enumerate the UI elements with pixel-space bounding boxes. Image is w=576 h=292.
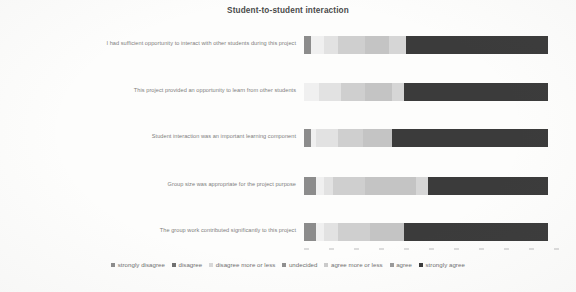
bar-segment[interactable] — [304, 223, 316, 241]
bar-segment[interactable] — [365, 177, 416, 195]
bar-segment[interactable] — [404, 83, 548, 101]
legend-swatch-undecided-icon — [282, 263, 286, 267]
bar-segment[interactable] — [392, 83, 404, 101]
bar-segment[interactable] — [406, 36, 548, 54]
x-tick-mark — [504, 248, 509, 250]
legend-item[interactable]: agree more or less — [324, 261, 382, 268]
chart-plot-area: I had sufficient opportunity to interact… — [0, 28, 576, 254]
legend-label: agree more or less — [331, 261, 383, 268]
x-tick-mark — [304, 248, 309, 250]
bar-segment[interactable] — [324, 223, 339, 241]
x-axis-ticks — [304, 248, 554, 254]
bar-segment[interactable] — [338, 36, 365, 54]
legend-item[interactable]: disagree more or less — [209, 261, 275, 268]
x-tick-mark — [429, 248, 434, 250]
bar-segment[interactable] — [338, 129, 362, 147]
category-label: The group work contributed significantly… — [34, 226, 296, 234]
x-tick-mark — [354, 248, 359, 250]
legend-label: disagree — [178, 261, 202, 268]
bar-segment[interactable] — [316, 223, 323, 241]
category-label: This project provided an opportunity to … — [34, 86, 296, 94]
legend-label: strongly agree — [426, 261, 465, 268]
chart-row: Group size was appropriate for the proje… — [0, 177, 576, 197]
x-tick-mark — [454, 248, 459, 250]
stacked-bar[interactable] — [304, 83, 548, 101]
stacked-bar[interactable] — [304, 36, 548, 54]
bar-segment[interactable] — [311, 36, 323, 54]
bar-segment[interactable] — [365, 36, 389, 54]
bar-segment[interactable] — [316, 129, 338, 147]
bar-segment[interactable] — [338, 223, 370, 241]
chart-row: This project provided an opportunity to … — [0, 83, 576, 103]
legend-item[interactable]: disagree — [172, 261, 202, 268]
legend-swatch-disagree-icon — [172, 263, 176, 267]
legend-swatch-strongly-disagree-icon — [111, 263, 115, 267]
x-tick-mark — [329, 248, 334, 250]
bar-segment[interactable] — [304, 83, 319, 101]
chart-title: Student-to-student interaction — [0, 6, 576, 15]
chart-legend: strongly disagreedisagreedisagree more o… — [0, 261, 576, 268]
bar-segment[interactable] — [316, 177, 323, 195]
bar-segment[interactable] — [341, 83, 365, 101]
bar-segment[interactable] — [304, 129, 311, 147]
bar-segment[interactable] — [416, 177, 428, 195]
legend-swatch-agree-icon — [390, 263, 394, 267]
legend-item[interactable]: agree — [390, 261, 412, 268]
bar-segment[interactable] — [333, 177, 365, 195]
legend-label: strongly disagree — [118, 261, 165, 268]
chart-row: The group work contributed significantly… — [0, 223, 576, 243]
x-tick-mark — [479, 248, 484, 250]
bar-segment[interactable] — [324, 177, 334, 195]
category-label: I had sufficient opportunity to interact… — [34, 39, 296, 47]
legend-label: agree — [396, 261, 412, 268]
legend-item[interactable]: strongly disagree — [111, 261, 165, 268]
x-tick-mark — [404, 248, 409, 250]
chart-row: Student interaction was an important lea… — [0, 129, 576, 149]
bar-segment[interactable] — [319, 83, 341, 101]
legend-swatch-disagree-more-or-less-icon — [209, 263, 213, 267]
bar-segment[interactable] — [365, 83, 392, 101]
x-tick-mark — [554, 248, 559, 250]
category-label: Student interaction was an important lea… — [34, 132, 296, 140]
bar-segment[interactable] — [363, 129, 392, 147]
legend-item[interactable]: undecided — [282, 261, 317, 268]
bar-segment[interactable] — [389, 36, 406, 54]
bar-segment[interactable] — [392, 129, 548, 147]
legend-swatch-strongly-agree-icon — [419, 263, 423, 267]
legend-label: undecided — [289, 261, 318, 268]
legend-swatch-agree-more-or-less-icon — [324, 263, 328, 267]
legend-label: disagree more or less — [216, 261, 276, 268]
x-tick-mark — [529, 248, 534, 250]
bar-segment[interactable] — [304, 177, 316, 195]
bar-segment[interactable] — [428, 177, 548, 195]
stacked-bar[interactable] — [304, 223, 548, 241]
stacked-bar[interactable] — [304, 177, 548, 195]
bar-segment[interactable] — [304, 36, 311, 54]
chart-row: I had sufficient opportunity to interact… — [0, 36, 576, 56]
category-label: Group size was appropriate for the proje… — [34, 180, 296, 188]
bar-segment[interactable] — [404, 223, 548, 241]
bar-segment[interactable] — [370, 223, 404, 241]
legend-item[interactable]: strongly agree — [419, 261, 465, 268]
x-tick-mark — [379, 248, 384, 250]
bar-segment[interactable] — [324, 36, 339, 54]
stacked-bar[interactable] — [304, 129, 548, 147]
